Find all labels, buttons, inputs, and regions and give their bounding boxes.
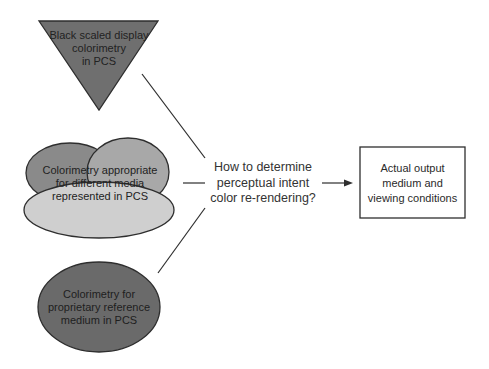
- cloud-node-label: Colorimetry appropriate for different me…: [24, 164, 176, 203]
- question-line-2: perceptual intent: [207, 176, 319, 192]
- output-box-line-2: medium and: [360, 176, 465, 191]
- question-line-3: color re-rendering?: [207, 191, 319, 207]
- triangle-node-label: Black scaled display colorimetry in PCS: [39, 29, 159, 68]
- output-box-line-1: Actual output: [360, 161, 465, 176]
- ellipse-node-label: Colorimetry for proprietary reference me…: [38, 288, 160, 327]
- question-node-label: How to determine perceptual intent color…: [207, 160, 319, 207]
- cloud-label-line-3: represented in PCS: [24, 190, 176, 203]
- ellipse-label-line-2: proprietary reference: [38, 301, 160, 314]
- ellipse-label-line-1: Colorimetry for: [38, 288, 160, 301]
- ellipse-label-line-3: medium in PCS: [38, 314, 160, 327]
- arrowhead-icon: [344, 180, 353, 187]
- output-box-label: Actual output medium and viewing conditi…: [360, 161, 465, 206]
- cloud-label-line-2: for different media: [24, 177, 176, 190]
- question-line-1: How to determine: [207, 160, 319, 176]
- cloud-label-line-1: Colorimetry appropriate: [24, 164, 176, 177]
- triangle-label-line-1: Black scaled display: [39, 29, 159, 42]
- output-box-line-3: viewing conditions: [360, 191, 465, 206]
- triangle-label-line-2: colorimetry: [39, 42, 159, 55]
- triangle-label-line-3: in PCS: [39, 55, 159, 68]
